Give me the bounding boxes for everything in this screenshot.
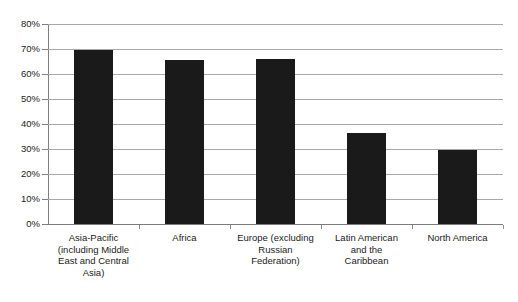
x-axis-label-line: Africa [140, 232, 229, 244]
x-axis-labels: Asia-Pacific(including MiddleEast and Ce… [48, 232, 503, 302]
x-axis-label-line: Europe (excluding [231, 232, 320, 244]
y-axis-label-10: 10% [0, 194, 40, 204]
x-axis-label-line: Asia-Pacific [49, 232, 138, 244]
bar-europe [256, 59, 295, 224]
x-axis-label-line: Federation) [231, 255, 320, 267]
y-axis-label-50: 50% [0, 94, 40, 104]
bar-latin-america [347, 133, 386, 224]
x-axis-label-europe: Europe (excludingRussianFederation) [230, 232, 321, 302]
gridline-70 [48, 49, 503, 50]
x-axis-label-latin-america: Latin Americanand theCaribbean [321, 232, 412, 302]
x-axis-tick-2 [230, 225, 231, 229]
x-axis-label-asia-pacific: Asia-Pacific(including MiddleEast and Ce… [48, 232, 139, 302]
y-axis-label-30: 30% [0, 144, 40, 154]
x-axis-tick-1 [139, 225, 140, 229]
gridline-0-baseline [48, 224, 503, 225]
y-axis-label-60: 60% [0, 69, 40, 79]
x-axis-label-line: Asia) [49, 267, 138, 279]
y-axis-label-80: 80% [0, 19, 40, 29]
x-axis-label-africa: Africa [139, 232, 230, 302]
x-axis-label-line: Latin American [322, 232, 411, 244]
bar-asia-pacific [74, 50, 113, 224]
gridline-80 [48, 24, 503, 25]
x-axis-label-line: and the [322, 244, 411, 256]
x-axis-tick-4 [412, 225, 413, 229]
y-axis-label-20: 20% [0, 169, 40, 179]
y-axis-label-40: 40% [0, 119, 40, 129]
x-axis-tick-3 [321, 225, 322, 229]
x-axis-tick-5 [503, 225, 504, 229]
x-axis-label-line: East and Central [49, 255, 138, 267]
x-axis-label-line: (including Middle [49, 244, 138, 256]
x-axis-label-line: Russian [231, 244, 320, 256]
bar-chart: 80% 70% 60% 50% 40% 30% 20% 10% 0% [0, 0, 518, 302]
x-axis-label-line: Caribbean [322, 255, 411, 267]
bar-north-america [438, 150, 477, 224]
x-axis-label-line: North America [413, 232, 502, 244]
y-axis-labels: 80% 70% 60% 50% 40% 30% 20% 10% 0% [0, 0, 40, 302]
x-axis-label-north-america: North America [412, 232, 503, 302]
y-axis-label-70: 70% [0, 44, 40, 54]
plot-area [48, 24, 503, 224]
y-axis-label-0: 0% [0, 219, 40, 229]
bar-africa [165, 60, 204, 224]
